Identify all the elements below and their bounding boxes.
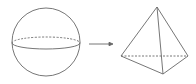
pyramid-edge-apex-right [157,7,188,56]
pyramid-edge-apex-front [157,7,163,74]
pyramid-edge-left-front [121,56,163,74]
sphere-equator-back-dashed [12,37,80,43]
arrow-icon [89,42,113,45]
pyramid-edge-apex-left [121,7,157,56]
pyramid-shape [121,7,188,74]
sphere-shape [12,8,80,76]
diagram-canvas [0,0,196,84]
sphere-equator-front [12,43,80,49]
pyramid-edge-front-right [163,56,188,74]
sphere-outline [12,8,80,76]
